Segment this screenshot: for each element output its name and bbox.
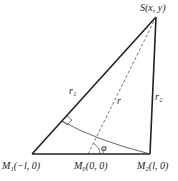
point-label-m1: M₁(−l, 0) bbox=[2, 161, 40, 171]
segment-r2 bbox=[150, 17, 156, 154]
point-label-m2: M₂(l, 0) bbox=[137, 161, 168, 171]
diagram-canvas: S(x, y) r₁ r r₂ φ M₁(−l, 0) M₀(0, 0) M₂(… bbox=[0, 0, 178, 181]
segment-label-r: r bbox=[117, 96, 121, 106]
segment-r1 bbox=[32, 17, 156, 154]
point-label-s: S(x, y) bbox=[140, 3, 166, 13]
triangle-diagram bbox=[0, 0, 178, 181]
segment-label-r2: r₂ bbox=[155, 92, 162, 102]
segment-r-dashed bbox=[88, 17, 156, 154]
angle-phi-arc bbox=[94, 144, 101, 155]
segment-label-r1: r₁ bbox=[69, 86, 76, 96]
angle-label-phi: φ bbox=[101, 143, 107, 153]
point-label-m0: M₀(0, 0) bbox=[74, 161, 107, 171]
